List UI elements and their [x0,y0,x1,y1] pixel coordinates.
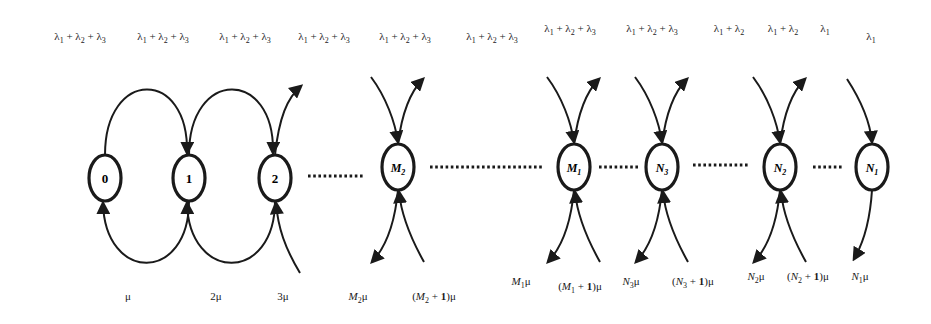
service-arrow-out [372,190,398,262]
arrival-rate-label: λ1 + λ2 + λ3 [298,30,349,45]
arrival-arrow-in [371,77,398,142]
service-rate-label: (M1 + 1)μ [558,280,602,295]
service-rate-label: (N3 + 1)μ [672,275,714,290]
service-arrow [854,190,872,259]
state-nodes: 012M2M1N3N2N1 [89,144,888,201]
state-node-2: 2 [259,155,291,201]
arrival-rate-label: λ1 + λ2 + λ3 [379,30,430,45]
service-arrow [187,201,275,263]
service-rate-label: M1μ [511,275,530,290]
service-rate-label: 3μ [277,290,288,302]
service-arrow [276,203,300,273]
arrival-arrow-out [780,79,805,144]
arrival-rate-label: λ1 + λ2 + λ3 [544,22,595,37]
service-rate-label: 2μ [210,290,221,302]
service-arrow-in [399,192,424,262]
arrival-rate-label: λ1 + λ2 + λ3 [219,30,270,45]
arrival-rate-label: λ1 + λ2 + λ3 [54,30,105,45]
arrival-arrow-out [398,79,423,144]
service-arrow-out [754,190,780,262]
service-rate-label: μ [125,290,131,302]
arrival-arrow-in [753,77,780,142]
arrival-arrow-out [574,79,599,144]
service-arrow-in [781,192,806,262]
node-label: 0 [102,171,109,186]
arrival-arrow [275,86,301,155]
node-label: 1 [186,171,193,186]
arrival-arrow [847,79,872,142]
state-node-m1: M1 [558,144,590,190]
arrival-rate-label: λ1 [820,22,829,37]
arrival-rate-label: λ1 [866,30,875,45]
state-node-m2: M2 [382,144,414,190]
state-node-n1: N1 [856,144,888,190]
arrival-rate-label: λ1 + λ2 + λ3 [466,30,517,45]
arrival-rate-label: λ1 + λ2 [714,22,744,37]
arrival-arrow-in [547,77,574,142]
arrival-arrow [105,89,187,155]
transition-arrows [103,77,872,273]
service-arrow-in [575,192,600,262]
state-node-0: 0 [89,155,121,201]
service-rate-label: N2μ [747,270,764,285]
service-arrow-out [548,190,574,262]
state-node-1: 1 [173,155,205,201]
service-rate-label: N1μ [851,270,868,285]
state-node-n2: N2 [764,144,796,190]
service-rate-label: (N2 + 1)μ [787,270,829,285]
service-rate-label: (M2 + 1)μ [412,290,456,305]
service-arrow [103,201,189,263]
arrival-arrow-out [662,79,687,144]
service-rate-label: N3μ [622,275,639,290]
state-node-n3: N3 [646,144,678,190]
service-arrow-out [636,190,662,262]
node-label: 2 [272,171,279,186]
arrival-rate-label: λ1 + λ2 + λ3 [626,22,677,37]
service-arrow-in [663,192,688,262]
arrival-arrow [189,89,273,155]
arrival-rate-label: λ1 + λ2 + λ3 [137,30,188,45]
arrival-rate-label: λ1 + λ2 [768,22,798,37]
arrival-arrow-in [635,77,662,142]
service-rate-label: M2μ [348,290,367,305]
